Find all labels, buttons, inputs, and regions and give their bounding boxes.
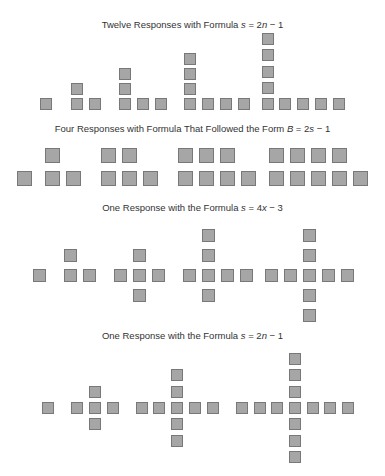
tile-square <box>303 269 316 282</box>
tile-square <box>289 353 301 365</box>
tile-square <box>133 289 146 302</box>
tile-square <box>122 171 137 186</box>
tile-square <box>289 451 301 463</box>
title-text: Four Responses with Formula That Followe… <box>55 123 287 134</box>
tile-square <box>89 98 101 110</box>
formula-text: − 1 <box>267 330 283 341</box>
tile-square <box>241 171 256 186</box>
tile-square <box>238 98 250 110</box>
tile-square <box>240 269 253 282</box>
tile-square <box>83 269 96 282</box>
tile-square <box>322 269 335 282</box>
section-title-1: Twelve Responses with Formula s = 2n − 1 <box>0 19 385 30</box>
section-title-2: Four Responses with Formula That Followe… <box>0 123 385 134</box>
tile-square <box>333 98 345 110</box>
title-text: One Response with the Formula <box>102 202 241 213</box>
tile-square <box>45 148 60 163</box>
tile-square <box>33 269 46 282</box>
tile-square <box>122 148 137 163</box>
tile-square <box>137 98 149 110</box>
tile-square <box>269 171 284 186</box>
tile-square <box>220 98 232 110</box>
section-title-4: One Response with the Formula s = 2n − 1 <box>0 330 385 341</box>
tile-square <box>265 269 278 282</box>
formula-text: = 2 <box>246 330 262 341</box>
tile-square <box>133 249 146 262</box>
tile-square <box>133 269 146 282</box>
tile-square <box>45 171 60 186</box>
formula-text: − 1 <box>267 19 283 30</box>
tile-square <box>289 435 301 447</box>
tile-square <box>184 68 196 80</box>
tile-square <box>236 402 248 414</box>
tile-square <box>171 369 183 381</box>
tile-square <box>332 171 347 186</box>
tile-square <box>178 148 193 163</box>
tile-square <box>66 171 81 186</box>
tile-square <box>199 148 214 163</box>
tile-square <box>178 171 193 186</box>
tile-square <box>119 83 131 95</box>
tile-square <box>262 66 274 78</box>
tile-square <box>220 171 235 186</box>
tile-square <box>279 98 291 110</box>
tile-square <box>315 98 327 110</box>
tile-square <box>189 402 201 414</box>
tile-square <box>71 83 83 95</box>
tile-square <box>303 289 316 302</box>
tile-square <box>153 402 165 414</box>
tile-square <box>284 269 297 282</box>
tile-square <box>114 269 127 282</box>
tile-square <box>289 369 301 381</box>
tile-square <box>119 98 131 110</box>
tile-square <box>202 269 215 282</box>
formula-text: − 3 <box>267 202 283 213</box>
title-text: One Response with the Formula <box>102 330 241 341</box>
tile-square <box>324 402 336 414</box>
tile-square <box>289 402 301 414</box>
tile-square <box>271 402 283 414</box>
tile-square <box>183 269 196 282</box>
tile-square <box>171 418 183 430</box>
formula-text: − 1 <box>314 123 330 134</box>
tile-square <box>184 98 196 110</box>
tile-square <box>262 33 274 45</box>
tile-square <box>297 98 309 110</box>
tile-square <box>101 148 116 163</box>
tile-square <box>64 249 77 262</box>
tile-square <box>290 171 305 186</box>
tile-square <box>184 83 196 95</box>
formula-text: = 2 <box>293 123 309 134</box>
tile-square <box>42 402 54 414</box>
tile-square <box>290 148 305 163</box>
tile-square <box>254 402 266 414</box>
tile-square <box>202 229 215 242</box>
tile-square <box>289 418 301 430</box>
tile-square <box>353 171 368 186</box>
tile-square <box>207 402 219 414</box>
tile-square <box>136 402 148 414</box>
tile-square <box>89 402 101 414</box>
section-title-3: One Response with the Formula s = 4x − 3 <box>0 202 385 213</box>
tile-square <box>341 269 354 282</box>
tile-square <box>64 269 77 282</box>
tile-square <box>143 171 158 186</box>
tile-square <box>332 148 347 163</box>
tile-square <box>171 386 183 398</box>
tile-square <box>171 402 183 414</box>
tile-square <box>202 98 214 110</box>
tile-square <box>119 68 131 80</box>
tile-square <box>262 49 274 61</box>
tile-square <box>17 171 32 186</box>
title-text: Twelve Responses with Formula <box>102 19 241 30</box>
formula-text: = 2 <box>246 19 262 30</box>
tile-square <box>202 249 215 262</box>
tile-square <box>152 269 165 282</box>
tile-square <box>303 229 316 242</box>
tile-square <box>262 98 274 110</box>
tile-square <box>184 53 196 65</box>
tile-square <box>171 435 183 447</box>
tile-square <box>89 386 101 398</box>
tile-square <box>71 98 83 110</box>
tile-square <box>342 402 354 414</box>
